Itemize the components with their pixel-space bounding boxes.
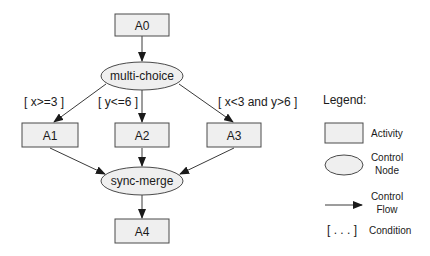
condition-label: [ x>=3 ] bbox=[24, 95, 64, 109]
legend-control-node-label-2: Node bbox=[375, 165, 399, 176]
node-multi-choice: multi-choice bbox=[101, 62, 183, 90]
node-label: A3 bbox=[227, 129, 242, 143]
legend-activity-label: Activity bbox=[371, 128, 403, 139]
condition-label: [ y<=6 ] bbox=[98, 95, 138, 109]
node-label: A4 bbox=[135, 225, 150, 239]
condition-label: [ x<3 and y>6 ] bbox=[218, 95, 297, 109]
node-label: sync-merge bbox=[111, 174, 174, 188]
legend-control-flow-label-2: Flow bbox=[376, 204, 398, 215]
conditions: [ x>=3 ] [ y<=6 ] [ x<3 and y>6 ] bbox=[24, 95, 297, 109]
legend-control-node-label-1: Control bbox=[371, 152, 403, 163]
workflow-diagram: A0 multi-choice A1 A2 A3 sync-merge A4 [… bbox=[0, 0, 430, 256]
legend-title: Legend: bbox=[323, 93, 366, 107]
edge-a3-syncmerge bbox=[180, 148, 234, 174]
node-label: multi-choice bbox=[110, 69, 174, 83]
legend-condition-symbol: [ . . . ] bbox=[327, 223, 357, 237]
node-sync-merge: sync-merge bbox=[101, 167, 183, 195]
node-a1: A1 bbox=[22, 123, 78, 147]
node-label: A0 bbox=[135, 19, 150, 33]
legend-activity-swatch bbox=[325, 123, 363, 143]
node-a3: A3 bbox=[207, 123, 261, 147]
node-a0: A0 bbox=[115, 14, 169, 36]
node-a2: A2 bbox=[115, 123, 169, 147]
node-a4: A4 bbox=[115, 219, 169, 243]
legend-control-node-swatch bbox=[325, 155, 363, 175]
legend-condition-label: Condition bbox=[369, 225, 411, 236]
node-label: A2 bbox=[135, 129, 150, 143]
edge-a1-syncmerge bbox=[50, 148, 105, 174]
legend: Legend: Activity Control Node Control Fl… bbox=[323, 93, 411, 237]
node-label: A1 bbox=[43, 129, 58, 143]
legend-control-flow-label-1: Control bbox=[371, 191, 403, 202]
